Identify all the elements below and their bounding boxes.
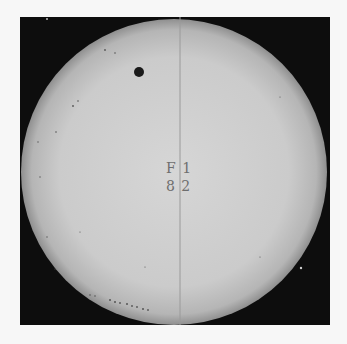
plate-spot [46,18,48,20]
plate-spot [300,267,302,269]
photo-frame: F 1 8 2 [20,17,330,325]
transit-body [134,67,144,77]
plate-label-line1: F 1 [166,160,192,176]
plate-label-line2: 8 2 [166,178,191,194]
